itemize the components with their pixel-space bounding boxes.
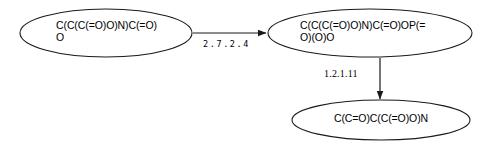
- edge-label-ec-2-7-2-4: 2.7.2.4: [203, 39, 250, 49]
- node-ellipse-3[interactable]: [292, 100, 470, 140]
- node-ellipse-1[interactable]: [20, 9, 192, 57]
- graph-svg: [0, 0, 490, 144]
- node-ellipse-2[interactable]: [268, 9, 472, 57]
- edge-label-ec-1-2-1-11: 1.2.1.11: [324, 68, 358, 79]
- diagram-canvas: C(C(C(=O)O)N)C(=O) O C(C(C(=O)O)N)C(=O)O…: [0, 0, 490, 144]
